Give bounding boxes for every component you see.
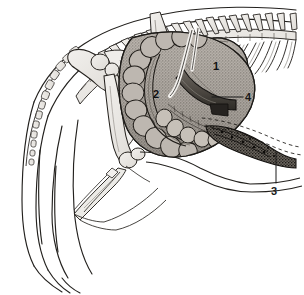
label-4: 4 bbox=[245, 92, 251, 103]
label-3: 3 bbox=[271, 186, 277, 197]
anatomy-illustration bbox=[0, 0, 304, 295]
label-2: 2 bbox=[153, 89, 159, 100]
anatomical-figure: 1 2 3 4 bbox=[0, 0, 304, 295]
label-1: 1 bbox=[213, 61, 219, 72]
